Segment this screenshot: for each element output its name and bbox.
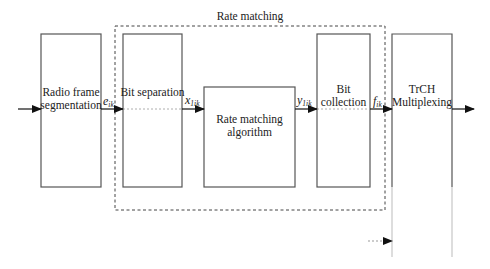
bit-separation-label: Bit separation [120,86,184,99]
bit-collection-block [317,34,370,187]
signal-y-1ik: y1ik [296,93,312,108]
bit-separation-block [123,34,182,187]
radio-frame-segmentation-label-line2: segmentation [40,99,102,112]
rate-matching-diagram: Rate matching Radio frame segmentation B… [0,0,490,269]
trch-multiplexing-label-line2: Multiplexing [392,96,452,109]
rate-matching-group-title: Rate matching [217,10,284,23]
signal-f-ik: fik [373,94,382,109]
bit-collection-label-line2: collection [321,96,367,108]
bit-collection-label-line1: Bit [336,83,351,95]
trch-multiplexing-label-line1: TrCH [409,83,435,95]
rate-matching-algorithm-label-line1: Rate matching [216,113,283,126]
signal-e-ik: eik [103,94,114,109]
rate-matching-algorithm-label-line2: algorithm [227,126,272,139]
trch-multiplexing-block [392,34,452,187]
signal-x-1ik: x1ik [184,93,200,108]
radio-frame-segmentation-label-line1: Radio frame [42,86,99,98]
